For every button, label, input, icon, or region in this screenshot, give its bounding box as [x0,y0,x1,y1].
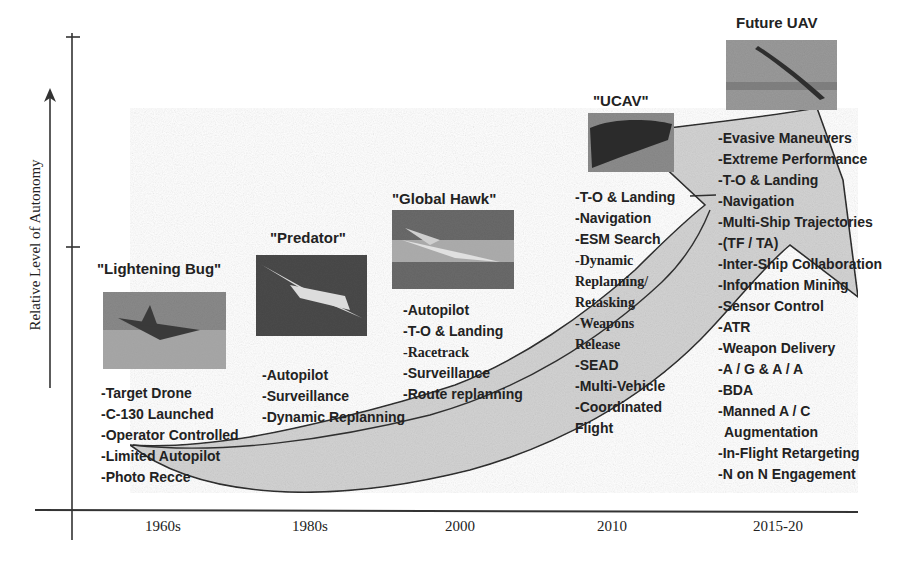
capability-item: -Dynamic [575,250,675,271]
capability-item: -Surveillance [262,386,405,407]
capability-item: -Autopilot [403,300,523,321]
capability-item: -Route replanning [403,384,523,405]
capability-item: -Autopilot [262,365,405,386]
lightening-bug-capabilities: -Target Drone -C-130 Launched -Operator … [101,383,239,488]
stage-title-ucav: "UCAV" [593,92,649,109]
capability-item: -T-O & Landing [718,170,882,191]
autonomy-arrow-icon [44,88,56,388]
capability-item: -Surveillance [403,363,523,384]
capability-item: -Navigation [575,208,675,229]
x-axis-label-2010: 2010 [597,518,627,535]
capability-item: -Racetrack [403,342,523,363]
capability-item: Replanning/ [575,271,675,292]
y-axis-label: Relative Level of Autonomy [27,159,44,330]
capability-item: -Sensor Control [718,296,882,317]
capability-item: -N on N Engagement [718,464,882,485]
capability-item: -Limited Autopilot [101,446,239,467]
global-hawk-photo [392,210,514,289]
capability-item: -Manned A / C [718,401,882,422]
capability-item: -Navigation [718,191,882,212]
ucav-photo [588,113,674,172]
capability-item: -Multi-Vehicle [575,376,675,397]
capability-item: -Weapon Delivery [718,338,882,359]
capability-item: -T-O & Landing [403,321,523,342]
capability-item: -(TF / TA) [718,233,882,254]
x-axis-label-2015-20: 2015-20 [753,518,803,535]
capability-item: -C-130 Launched [101,404,239,425]
capability-item: -In-Flight Retargeting [718,443,882,464]
capability-item: Release [575,334,675,355]
capability-item: -Multi-Ship Trajectories [718,212,882,233]
future-uav-capabilities: -Evasive Maneuvers -Extreme Performance … [718,128,882,485]
x-axis-label-1980s: 1980s [292,518,328,535]
capability-item: -Extreme Performance [718,149,882,170]
predator-photo [256,255,367,336]
capability-item: -Photo Recce [101,467,239,488]
capability-item: Augmentation [718,422,882,443]
capability-item: -Information Mining [718,275,882,296]
capability-item: -Weapons [575,313,675,334]
ucav-capabilities: -T-O & Landing -Navigation -ESM Search -… [575,187,675,439]
capability-item: -Target Drone [101,383,239,404]
capability-item: -Evasive Maneuvers [718,128,882,149]
capability-item: Flight [575,418,675,439]
capability-item: -Dynamic Replanning [262,407,405,428]
y-axis [66,33,80,540]
stage-title-lightening-bug: "Lightening Bug" [97,260,221,277]
capability-item: -SEAD [575,355,675,376]
x-axis-label-1960s: 1960s [145,518,181,535]
capability-item: -ATR [718,317,882,338]
stage-title-future-uav: Future UAV [736,14,817,31]
stage-title-predator: "Predator" [270,229,346,246]
capability-item: -Coordinated [575,397,675,418]
capability-item: -A / G & A / A [718,359,882,380]
uav-autonomy-evolution-diagram: Relative Level of Autonomy "Lightening B… [0,0,924,564]
capability-item: -ESM Search [575,229,675,250]
capability-item: -Operator Controlled [101,425,239,446]
x-axis-label-2000: 2000 [445,518,475,535]
global-hawk-capabilities: -Autopilot -T-O & Landing -Racetrack -Su… [403,300,523,405]
stage-title-global-hawk: "Global Hawk" [392,190,496,207]
x-axis [35,510,858,512]
lightening-bug-photo [103,292,226,369]
capability-item: Retasking [575,292,675,313]
capability-item: -BDA [718,380,882,401]
capability-item: -T-O & Landing [575,187,675,208]
predator-capabilities: -Autopilot -Surveillance -Dynamic Replan… [262,365,405,428]
capability-item: -Inter-Ship Collaboration [718,254,882,275]
future-uav-photo [726,40,837,110]
